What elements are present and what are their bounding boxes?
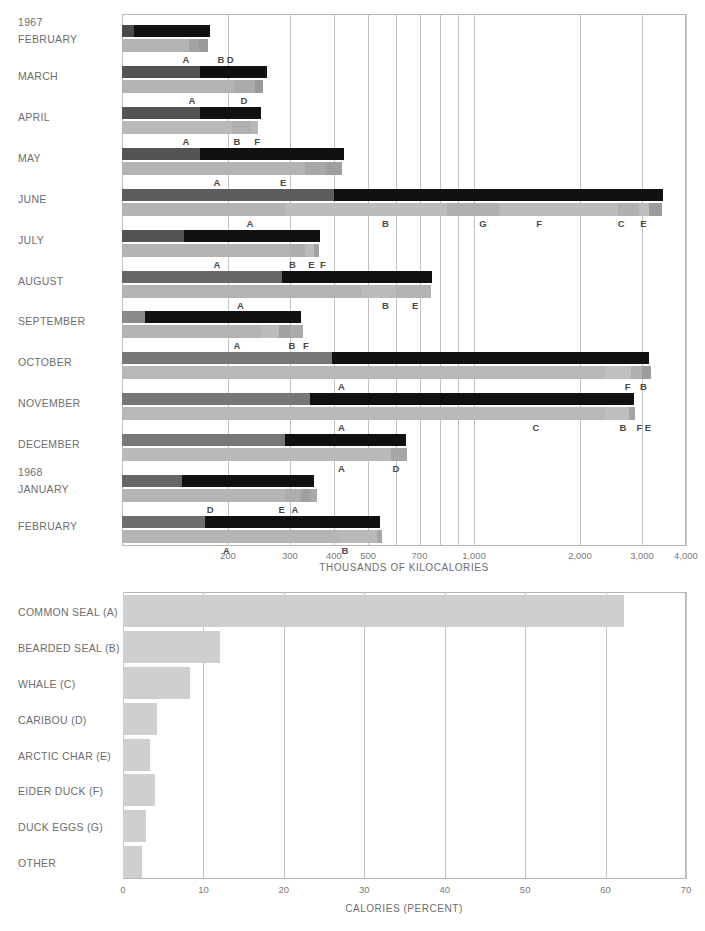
gridline [686,592,687,879]
gridline [284,592,285,879]
species-marker-B: B [289,340,296,351]
species-marker-B: B [233,136,240,147]
yield-bar-segment [122,448,391,461]
x-tick-label: 2,000 [568,550,592,561]
top-x-axis-title: THOUSANDS OF KILOCALORIES [319,562,488,573]
effort-bar [122,148,344,160]
x-tick-label: 60 [600,884,611,895]
yield-bar [122,489,317,502]
percent-bar [123,595,624,627]
species-marker-B: B [217,54,224,65]
x-tick-label: 50 [520,884,531,895]
x-tick-label: 30 [359,884,370,895]
yield-bar-segment [122,39,189,52]
effort-bar-segment [122,516,205,528]
month-label: MAY [18,152,41,164]
yield-bar-segment [122,325,261,338]
species-marker-A: A [292,504,299,515]
percent-bar [123,667,190,699]
effort-bar-segment [122,311,145,323]
effort-bar-segment [122,311,301,323]
category-label: OTHER [18,857,56,869]
species-marker-E: E [308,259,314,270]
species-marker-F: F [254,136,260,147]
effort-bar [122,475,314,487]
calorie-percent-chart: COMMON SEAL (A)BEARDED SEAL (B)WHALE (C)… [0,580,705,931]
species-marker-E: E [280,177,286,188]
species-marker-C: C [533,422,540,433]
effort-bar-segment [122,148,200,160]
month-label: MARCH [18,70,58,82]
gridline [445,592,446,879]
effort-bar-segment [122,230,184,242]
species-marker-A: A [183,136,190,147]
species-marker-A: A [213,259,220,270]
species-marker-B: B [640,381,647,392]
yield-bar-segment [122,366,605,379]
category-label: EIDER DUCK (F) [18,785,103,797]
gridline [606,592,607,879]
yield-bar-segment [122,285,361,298]
effort-bar [122,434,406,446]
yield-bar-segment [122,244,290,257]
x-tick-label: 10 [198,884,209,895]
species-marker-D: D [393,463,400,474]
month-label: OCTOBER [18,356,72,368]
percent-bar [123,703,157,735]
yield-bar-segment [122,80,234,93]
species-marker-E: E [640,218,646,229]
monthly-kilocalories-chart: 1967FEBRUARYABDMARCHADAPRILABFMAYAEJUNEA… [0,0,705,575]
effort-bar-segment [122,352,332,364]
percent-bar [123,774,155,806]
effort-bar [122,311,301,323]
gridline [440,14,441,546]
x-tick-label: 300 [282,550,298,561]
month-label: DECEMBER [18,438,80,450]
effort-bar [122,66,267,78]
species-marker-E: E [645,422,651,433]
yield-bar-segment [122,162,305,175]
month-label: AUGUST [18,275,64,287]
effort-bar-segment [122,434,285,446]
year-label: 1968 [18,466,43,478]
category-label: WHALE (C) [18,678,76,690]
effort-bar [122,271,432,283]
gridline [474,14,475,546]
effort-bar [122,107,261,119]
month-label: NOVEMBER [18,397,81,409]
effort-bar-segment [122,271,282,283]
category-label: CARIBOU (D) [18,714,87,726]
species-marker-F: F [303,340,309,351]
species-marker-D: D [227,54,234,65]
species-marker-F: F [625,381,631,392]
yield-bar-segment [122,407,605,420]
species-marker-C: C [618,218,625,229]
yield-bar-segment [122,121,232,134]
percent-bar [123,846,142,878]
yield-bar [122,203,662,216]
gridline [642,14,643,546]
species-marker-A: A [233,340,240,351]
yield-bar-segment [122,489,285,502]
species-marker-A: A [188,95,195,106]
yield-bar [122,285,431,298]
species-marker-E: E [278,504,284,515]
category-label: DUCK EGGS (G) [18,821,103,833]
gridline [525,592,526,879]
species-marker-F: F [536,218,542,229]
yield-bar-segment [122,203,285,216]
category-label: COMMON SEAL (A) [18,606,118,618]
effort-bar-segment [122,66,200,78]
effort-bar-segment [122,107,200,119]
x-tick-label: 40 [439,884,450,895]
x-tick-label: 400 [326,550,342,561]
effort-bar [122,393,634,405]
yield-bar [122,39,208,52]
month-label: FEBRUARY [18,33,77,45]
month-label: JUNE [18,193,47,205]
species-marker-A: A [338,422,345,433]
effort-bar-segment [122,25,210,37]
yield-bar-segment [122,530,341,543]
yield-bar [122,448,407,461]
category-label: ARCTIC CHAR (E) [18,750,111,762]
